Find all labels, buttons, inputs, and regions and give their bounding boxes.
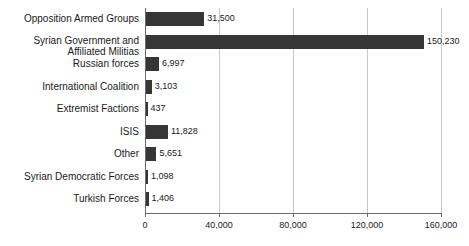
bar-value-label: 31,500	[207, 13, 235, 24]
bar-row: ISIS11,828	[0, 121, 469, 143]
category-label: Extremist Factions	[0, 103, 139, 115]
bar-value-label: 1,406	[152, 193, 175, 204]
bar	[146, 57, 159, 71]
bar-row: Other5,651	[0, 143, 469, 165]
category-label: Syrian Democratic Forces	[0, 171, 139, 183]
bar-row: Turkish Forces1,406	[0, 188, 469, 210]
bar-value-label: 3,103	[155, 81, 178, 92]
bar-row: Russian forces6,997	[0, 53, 469, 75]
x-tick-mark	[219, 213, 220, 217]
bar	[146, 192, 149, 206]
x-tick-mark	[293, 213, 294, 217]
bar-value-label: 6,997	[162, 58, 185, 69]
x-tick-label: 40,000	[205, 220, 233, 231]
x-tick-label: 160,000	[425, 220, 458, 231]
bar-row: Extremist Factions437	[0, 98, 469, 120]
x-tick-mark	[145, 213, 146, 217]
category-label: International Coalition	[0, 81, 139, 93]
bar-chart: Opposition Armed Groups31,500Syrian Gove…	[0, 0, 469, 246]
x-tick-label: 120,000	[351, 220, 384, 231]
bar	[146, 170, 148, 184]
category-label: Turkish Forces	[0, 193, 139, 205]
x-tick-mark	[367, 213, 368, 217]
bar-value-label: 150,230	[427, 36, 460, 47]
bar-value-label: 1,098	[151, 171, 174, 182]
category-label: Other	[0, 148, 139, 160]
x-tick-mark	[441, 213, 442, 217]
bar	[146, 147, 156, 161]
bar	[146, 102, 148, 116]
bar-value-label: 437	[151, 103, 166, 114]
bar-row: Syrian Government and Affiliated Militia…	[0, 31, 469, 53]
category-label: Opposition Armed Groups	[0, 13, 139, 25]
bar	[146, 12, 204, 26]
category-label: ISIS	[0, 126, 139, 138]
bar	[146, 35, 424, 49]
bar	[146, 125, 168, 139]
category-label: Russian forces	[0, 58, 139, 70]
bar-row: Opposition Armed Groups31,500	[0, 8, 469, 30]
bar-row: International Coalition3,103	[0, 76, 469, 98]
bar-value-label: 5,651	[159, 148, 182, 159]
bar-value-label: 11,828	[171, 126, 198, 137]
bar-row: Syrian Democratic Forces1,098	[0, 166, 469, 188]
x-tick-label: 80,000	[279, 220, 307, 231]
x-tick-label: 0	[142, 220, 147, 231]
bar	[146, 80, 152, 94]
